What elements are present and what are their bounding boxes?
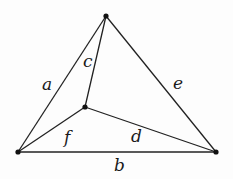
edge-label-f: f xyxy=(62,127,73,147)
vertex-bottom-right xyxy=(213,149,218,154)
edge-label-e: e xyxy=(173,73,183,93)
edge-a xyxy=(18,16,106,152)
edge-e xyxy=(106,16,216,152)
edge-d xyxy=(85,107,216,152)
edge-label-b: b xyxy=(114,155,125,175)
vertex-bottom-left xyxy=(15,149,20,154)
edge-f xyxy=(18,107,85,152)
vertex-inner xyxy=(82,104,87,109)
graph-diagram: abcdef xyxy=(0,0,233,179)
labels-group: abcdef xyxy=(42,51,183,175)
edge-label-d: d xyxy=(131,126,142,146)
edge-label-c: c xyxy=(83,51,93,71)
edge-label-a: a xyxy=(42,74,52,94)
vertex-top xyxy=(103,13,108,18)
